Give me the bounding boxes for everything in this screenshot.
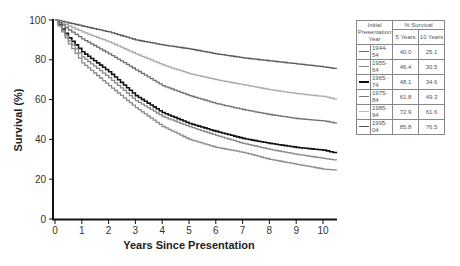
legend-year: 1985-94 bbox=[371, 105, 393, 120]
legend-5yr-value: 72.9 bbox=[393, 105, 419, 120]
legend-10yr-value: 25.1 bbox=[419, 45, 445, 60]
x-axis-label: Years Since Presentation bbox=[123, 239, 255, 251]
legend-table: Initial Presentation Year % Survival 5 Y… bbox=[356, 20, 445, 135]
x-tick-label: 2 bbox=[106, 225, 112, 236]
legend-header-year: Initial Presentation Year bbox=[357, 21, 393, 45]
legend-5yr-value: 40.0 bbox=[393, 45, 419, 60]
legend-header-survival: % Survival bbox=[393, 21, 445, 30]
legend-year: 1995-04 bbox=[371, 120, 393, 135]
legend-line-icon bbox=[357, 90, 371, 105]
y-tick-label: 40 bbox=[35, 134, 47, 145]
x-tick-label: 10 bbox=[317, 225, 329, 236]
x-tick-label: 6 bbox=[213, 225, 219, 236]
legend-row: 1985-9472.961.6 bbox=[357, 105, 445, 120]
y-tick-label: 80 bbox=[35, 54, 47, 65]
x-tick-label: 9 bbox=[293, 225, 299, 236]
legend-year: 1975-84 bbox=[371, 90, 393, 105]
x-tick-label: 7 bbox=[240, 225, 246, 236]
legend-row: 1975-8461.849.3 bbox=[357, 90, 445, 105]
legend-10yr-value: 76.5 bbox=[419, 120, 445, 135]
x-tick-label: 1 bbox=[79, 225, 85, 236]
legend-10yr-value: 61.6 bbox=[419, 105, 445, 120]
legend-row: 1995-0485.876.5 bbox=[357, 120, 445, 135]
y-tick-label: 0 bbox=[40, 214, 46, 225]
legend-header-5yr: 5 Years bbox=[393, 30, 419, 45]
legend-5yr-value: 61.8 bbox=[393, 90, 419, 105]
legend-5yr-value: 85.8 bbox=[393, 120, 419, 135]
legend-row: 1965-7448.134.6 bbox=[357, 75, 445, 90]
legend-line-icon bbox=[357, 75, 371, 90]
legend-year: 1965-74 bbox=[371, 75, 393, 90]
y-tick-label: 20 bbox=[35, 174, 47, 185]
legend-5yr-value: 48.1 bbox=[393, 75, 419, 90]
legend-10yr-value: 49.3 bbox=[419, 90, 445, 105]
legend-row: 1955-6446.430.5 bbox=[357, 60, 445, 75]
x-tick-label: 3 bbox=[133, 225, 139, 236]
legend-5yr-value: 46.4 bbox=[393, 60, 419, 75]
y-tick-label: 60 bbox=[35, 94, 47, 105]
curve-1965-74 bbox=[55, 20, 336, 153]
x-tick-label: 0 bbox=[52, 225, 58, 236]
survival-curves bbox=[55, 20, 336, 170]
legend-10yr-value: 30.5 bbox=[419, 60, 445, 75]
legend-line-icon bbox=[357, 120, 371, 135]
legend-10yr-value: 34.6 bbox=[419, 75, 445, 90]
legend-line-icon bbox=[357, 105, 371, 120]
legend-row: 1944-5440.025.1 bbox=[357, 45, 445, 60]
legend-year: 1944-54 bbox=[371, 45, 393, 60]
y-tick-label: 100 bbox=[29, 15, 46, 26]
curve-1985-94 bbox=[55, 20, 336, 100]
x-tick-label: 5 bbox=[186, 225, 192, 236]
y-axis-label: Survival (%) bbox=[12, 88, 24, 151]
legend-line-icon bbox=[357, 60, 371, 75]
curve-1955-64 bbox=[55, 20, 336, 160]
legend-line-icon bbox=[357, 45, 371, 60]
legend-year: 1955-64 bbox=[371, 60, 393, 75]
legend-header-10yr: 10 Years bbox=[419, 30, 445, 45]
x-tick-label: 4 bbox=[159, 225, 165, 236]
curve-1975-84 bbox=[55, 20, 336, 124]
x-tick-label: 8 bbox=[267, 225, 273, 236]
